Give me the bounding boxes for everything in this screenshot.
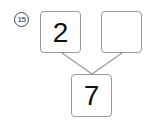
number-box-bottom: 7 — [71, 74, 112, 117]
number-box-top-left: 2 — [40, 11, 81, 53]
answer-box-top-right[interactable] — [101, 11, 142, 53]
